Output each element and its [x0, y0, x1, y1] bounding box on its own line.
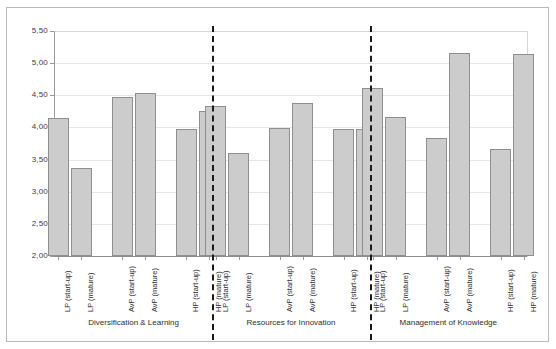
x-tick-mark — [280, 257, 281, 260]
y-tick: 4,50 — [0, 95, 48, 96]
bar — [333, 129, 354, 256]
x-tick-label: AvP (mature) — [464, 256, 476, 312]
bar — [385, 117, 406, 257]
x-tick-label: AvP (start-up) — [126, 256, 138, 312]
x-tick-mark — [122, 257, 123, 260]
bar — [426, 138, 447, 256]
x-tick-mark — [58, 257, 59, 260]
x-tick-label: AvP (mature) — [149, 256, 161, 312]
group-label: Management of Knowledge — [370, 318, 527, 328]
bar — [112, 97, 133, 256]
y-tick-label: 3,50 — [4, 156, 48, 164]
bar — [362, 88, 383, 256]
x-tick-mark — [344, 257, 345, 260]
y-tick: 5,50 — [0, 31, 48, 32]
y-tick: 3,50 — [0, 160, 48, 161]
bar — [135, 93, 156, 256]
x-tick-mark — [501, 257, 502, 260]
bar — [490, 149, 511, 256]
x-tick-label: LP (mature) — [85, 256, 97, 312]
x-tick-label: HP (mature) — [528, 256, 540, 312]
y-tick: 2,50 — [0, 224, 48, 225]
x-tick-mark — [373, 257, 374, 260]
bar — [228, 153, 249, 256]
x-tick-mark — [396, 257, 397, 260]
x-tick-mark — [209, 257, 210, 260]
bar — [48, 118, 69, 256]
x-tick-mark — [216, 257, 217, 260]
group-label: Diversification & Learning — [55, 318, 212, 328]
x-tick-label: LP (start-up) — [377, 256, 389, 312]
y-tick: 5,00 — [0, 63, 48, 64]
x-tick-mark — [367, 257, 368, 260]
x-tick-label: AvP (start-up) — [441, 256, 453, 312]
x-tick-label: HP (start-up) — [348, 256, 360, 312]
x-tick-mark — [186, 257, 187, 260]
y-tick: 3,00 — [0, 192, 48, 193]
bar — [176, 129, 197, 256]
x-axis-labels: LP (start-up)LP (mature)AvP (start-up)Av… — [55, 257, 527, 312]
x-tick-label: LP (mature) — [243, 256, 255, 312]
group-separator — [370, 26, 372, 340]
x-tick-mark — [145, 257, 146, 260]
x-tick-mark — [460, 257, 461, 260]
y-tick-label: 5,50 — [4, 27, 48, 35]
group-label: Resources for Innovation — [212, 318, 369, 328]
bars-container — [55, 31, 527, 256]
group-separator — [212, 26, 214, 340]
y-tick: 2,00 — [0, 256, 48, 257]
y-tick-label: 5,00 — [4, 59, 48, 67]
x-tick-label: LP (mature) — [400, 256, 412, 312]
bar — [292, 103, 313, 256]
x-tick-label: HP (start-up) — [505, 256, 517, 312]
x-tick-label: LP (start-up) — [62, 256, 74, 312]
x-tick-mark — [239, 257, 240, 260]
y-tick-label: 3,00 — [4, 188, 48, 196]
x-tick-label: AvP (mature) — [307, 256, 319, 312]
x-tick-label: LP (start-up) — [220, 256, 232, 312]
y-tick: 4,00 — [0, 127, 48, 128]
y-tick-label: 4,50 — [4, 91, 48, 99]
x-tick-mark — [437, 257, 438, 260]
bar — [205, 106, 226, 256]
bar — [449, 53, 470, 256]
bar — [513, 54, 534, 257]
bar-chart: 2,002,503,003,504,004,505,005,50 LP (sta… — [0, 0, 556, 349]
bar — [269, 128, 290, 256]
x-tick-label: HP (start-up) — [190, 256, 202, 312]
y-tick-label: 2,00 — [4, 252, 48, 260]
y-tick-label: 2,50 — [4, 220, 48, 228]
x-tick-mark — [81, 257, 82, 260]
bar — [71, 168, 92, 256]
y-tick-label: 4,00 — [4, 123, 48, 131]
x-tick-mark — [524, 257, 525, 260]
x-tick-mark — [303, 257, 304, 260]
x-tick-label: AvP (start-up) — [284, 256, 296, 312]
